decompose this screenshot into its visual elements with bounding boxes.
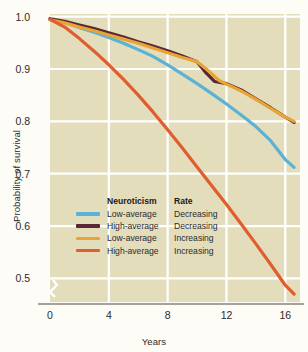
- legend-neuroticism-label: Low-average: [107, 209, 174, 219]
- legend-header-spacer: [76, 196, 107, 206]
- legend-header: Neuroticism Rate: [76, 196, 234, 206]
- legend-neuroticism-label: High-average: [107, 246, 174, 256]
- legend-neuroticism-label: Low-average: [107, 233, 174, 243]
- legend-rate-label: Increasing: [174, 233, 234, 243]
- legend-rate-label: Decreasing: [174, 209, 234, 219]
- legend-header-neuroticism: Neuroticism: [107, 196, 174, 206]
- survival-chart-figure: Probability of survival Years 0.50.60.70…: [0, 0, 308, 352]
- legend-color-swatch: [76, 249, 100, 253]
- plot-canvas: [0, 0, 308, 352]
- legend-color-swatch: [76, 212, 100, 216]
- legend-row: Low-averageIncreasing: [76, 233, 234, 243]
- legend-color-swatch: [76, 237, 100, 241]
- legend-rate-label: Decreasing: [174, 221, 234, 231]
- legend-header-rate: Rate: [174, 196, 234, 206]
- legend-neuroticism-label: High-average: [107, 221, 174, 231]
- legend-color-swatch: [76, 224, 100, 228]
- plot-background: [50, 14, 300, 302]
- legend-row: Low-averageDecreasing: [76, 209, 234, 219]
- legend-rate-label: Increasing: [174, 246, 234, 256]
- legend-row: High-averageIncreasing: [76, 246, 234, 256]
- legend-row: High-averageDecreasing: [76, 221, 234, 231]
- legend-rows: Low-averageDecreasingHigh-averageDecreas…: [76, 209, 234, 256]
- chart-legend: Neuroticism Rate Low-averageDecreasingHi…: [76, 196, 234, 256]
